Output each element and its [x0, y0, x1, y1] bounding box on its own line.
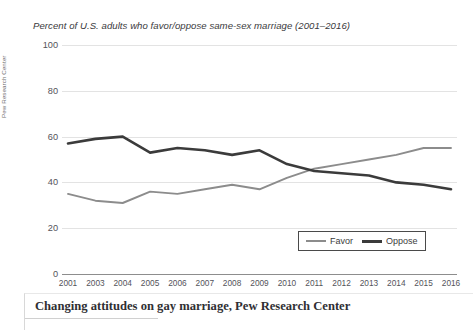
y-tick-40: 40 — [32, 177, 58, 187]
y-tick-80: 80 — [32, 86, 58, 96]
line-favor — [68, 148, 451, 203]
x-tick-2009: 2009 — [250, 278, 268, 288]
x-tick-2004: 2004 — [113, 278, 131, 288]
chart-legend: FavorOppose — [298, 231, 426, 251]
x-tick-2013: 2013 — [360, 278, 378, 288]
caption-underline — [25, 318, 158, 319]
x-tick-2003: 2003 — [86, 278, 104, 288]
legend-label-oppose: Oppose — [386, 236, 418, 246]
y-axis-tick-labels: 020406080100 — [30, 45, 58, 274]
source-vertical-label: Pew Research Center — [0, 18, 14, 118]
y-tick-20: 20 — [32, 223, 58, 233]
x-tick-2005: 2005 — [141, 278, 159, 288]
x-axis-line — [62, 274, 457, 275]
x-axis-tick-labels: 2001200320042005200620072008200920102011… — [62, 278, 457, 292]
x-tick-2007: 2007 — [196, 278, 214, 288]
chart-title: Percent of U.S. adults who favor/oppose … — [33, 20, 350, 31]
legend-entry-favor[interactable]: Favor — [306, 236, 353, 246]
figure-card: Pew Research Center Percent of U.S. adul… — [0, 0, 473, 330]
caption-text: Changing attitudes on gay marriage, Pew … — [35, 299, 350, 314]
x-tick-2014: 2014 — [387, 278, 405, 288]
x-tick-2015: 2015 — [414, 278, 432, 288]
legend-label-favor: Favor — [330, 236, 353, 246]
x-tick-2001: 2001 — [59, 278, 77, 288]
line-oppose — [68, 137, 451, 190]
y-tick-0: 0 — [32, 269, 58, 279]
legend-swatch-oppose-icon — [362, 240, 382, 243]
x-tick-2011: 2011 — [305, 278, 323, 288]
legend-entry-oppose[interactable]: Oppose — [362, 236, 418, 246]
x-tick-2006: 2006 — [168, 278, 186, 288]
caption-card: Changing attitudes on gay marriage, Pew … — [24, 293, 473, 330]
x-tick-2012: 2012 — [332, 278, 350, 288]
legend-swatch-favor-icon — [306, 240, 326, 242]
x-tick-2008: 2008 — [223, 278, 241, 288]
x-tick-2010: 2010 — [278, 278, 296, 288]
x-tick-2016: 2016 — [442, 278, 460, 288]
y-tick-60: 60 — [32, 132, 58, 142]
y-tick-100: 100 — [32, 40, 58, 50]
